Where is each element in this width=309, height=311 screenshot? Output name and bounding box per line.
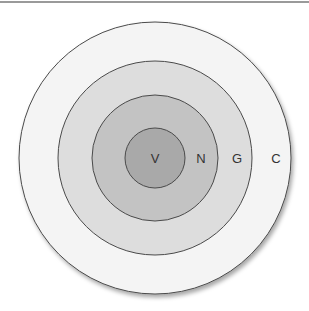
ring-label-c: C	[271, 151, 280, 166]
ring-label-g: G	[232, 151, 242, 166]
ring-label-n: N	[196, 151, 205, 166]
concentric-circle-diagram: CGNV	[0, 0, 309, 311]
ring-label-v: V	[151, 151, 160, 166]
